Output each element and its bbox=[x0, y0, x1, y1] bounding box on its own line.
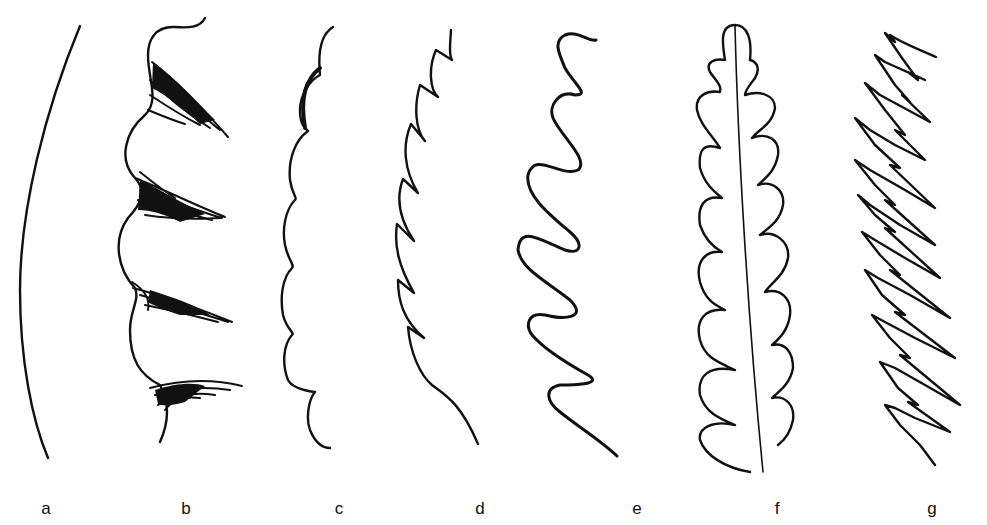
leaf-margin-diagram: a b c d e f g bbox=[0, 0, 987, 525]
margin-d-serrate-drawing bbox=[396, 30, 478, 444]
label-g: g bbox=[927, 500, 936, 517]
margin-g-doubly-serrate-drawing bbox=[855, 33, 960, 465]
margin-c-crenate-drawing bbox=[282, 27, 333, 448]
label-a: a bbox=[41, 500, 50, 517]
label-f: f bbox=[775, 500, 780, 517]
margin-b-ciliate-drawing bbox=[119, 18, 242, 442]
label-c: c bbox=[335, 500, 344, 517]
margin-e-sinuate-drawing bbox=[518, 34, 617, 456]
label-b: b bbox=[181, 500, 190, 517]
label-e: e bbox=[632, 500, 641, 517]
margin-f-lobed-drawing bbox=[697, 25, 793, 472]
margin-a-entire-drawing bbox=[20, 26, 80, 458]
label-d: d bbox=[475, 500, 484, 517]
margin-drawings bbox=[0, 0, 987, 525]
